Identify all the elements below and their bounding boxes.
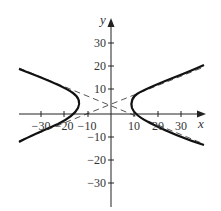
x-tick-label: 20 — [152, 119, 164, 133]
x-tick-label: 30 — [175, 119, 187, 133]
x-tick-label: −30 — [32, 119, 51, 133]
x-tick-label: −20 — [55, 119, 74, 133]
y-tick-label: −20 — [87, 153, 106, 167]
y-tick-label: −30 — [87, 176, 106, 190]
y-tick-label: 10 — [94, 82, 106, 96]
x-axis-label: x — [197, 116, 204, 131]
hyperbola-right-branch — [132, 65, 204, 145]
y-tick-label: 30 — [94, 36, 106, 50]
y-axis-arrow-icon — [108, 18, 115, 27]
x-tick-label: 10 — [128, 119, 140, 133]
y-axis-label: y — [98, 12, 106, 27]
y-tick-label: −10 — [87, 130, 106, 144]
y-tick-label: 20 — [94, 59, 106, 73]
hyperbola-chart: y x −30 −20 −10 10 20 30 30 20 10 −10 −2… — [0, 0, 221, 211]
